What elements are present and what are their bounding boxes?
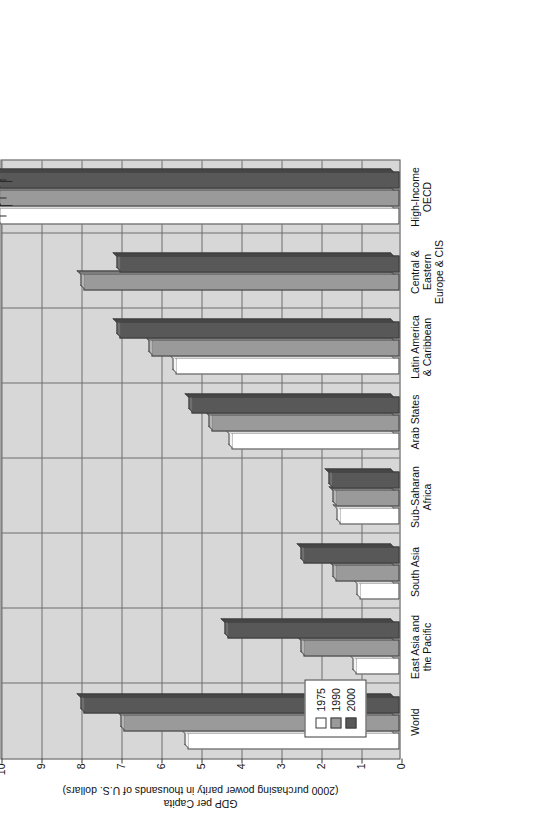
bar-2000-sub-saharan-africa	[331, 471, 399, 488]
axis-tick-mark	[161, 758, 162, 763]
y-axis-title-main: GDP per Capita	[62, 797, 338, 810]
callout-leader-line	[0, 180, 6, 181]
bar-side-face	[112, 252, 394, 256]
bar-1990-high-income-oecd	[0, 189, 399, 206]
category-label: World	[408, 684, 420, 759]
gridline	[81, 160, 82, 758]
legend-swatch-1975	[315, 717, 326, 728]
bar-1990-east-asia-and-the-pacific	[303, 639, 399, 656]
gridline	[201, 160, 202, 758]
bar-side-face	[296, 543, 394, 547]
legend-swatch-1990	[330, 717, 341, 728]
category-label: Sub-Saharan Africa	[408, 459, 432, 534]
legend: 197519902000	[304, 679, 366, 737]
axis-tick-mark	[281, 758, 282, 763]
bar-2000-arab-states	[191, 396, 399, 413]
bar-2000-south-asia	[303, 546, 399, 563]
category-separator	[1, 382, 399, 383]
bar-2000-central-eastern-europe-cis	[119, 255, 399, 272]
axis-tick-mark	[361, 758, 362, 763]
category-separator	[1, 307, 399, 308]
category-label: High-Income OECD	[408, 159, 432, 234]
gridline	[121, 160, 122, 758]
category-label: Arab States	[408, 384, 420, 459]
bar-1975-arab-states	[231, 432, 399, 449]
bar-side-face	[220, 618, 394, 622]
callout-leader-line	[0, 198, 6, 199]
axis-tick-mark	[321, 758, 322, 763]
chart-rotation-wrapper: GDP per Capita (2000 purchasing power pa…	[0, 0, 557, 822]
y-tick-label: 8	[74, 763, 86, 769]
y-tick-label: 5	[194, 763, 206, 769]
bar-1990-sub-saharan-africa	[335, 489, 399, 506]
bar-side-face	[324, 468, 394, 472]
category-label: Central & Eastern Europe & CIS	[408, 234, 444, 309]
axis-tick-mark	[81, 758, 82, 763]
gdp-per-capita-bar-chart: GDP per Capita (2000 purchasing power pa…	[0, 0, 557, 822]
axis-tick-mark	[201, 758, 202, 763]
bar-1975-sub-saharan-africa	[339, 507, 399, 524]
axis-tick-mark	[41, 758, 42, 763]
bar-1975-south-asia	[359, 582, 399, 599]
axis-tick-mark	[121, 758, 122, 763]
axis-break-marker	[0, 154, 14, 212]
plot-area	[0, 159, 400, 759]
gridline	[281, 160, 282, 758]
gridline	[241, 160, 242, 758]
y-tick-label: 6	[154, 763, 166, 769]
y-tick-label: 1	[354, 763, 366, 769]
legend-label-1975: 1975	[314, 688, 326, 711]
gridline	[321, 160, 322, 758]
callout-leader-line	[0, 216, 6, 217]
y-tick-label: 9	[34, 763, 46, 769]
category-separator	[1, 457, 399, 458]
legend-label-1990: 1990	[329, 688, 341, 711]
legend-label-2000: 2000	[344, 688, 356, 711]
y-tick-label: 2	[314, 763, 326, 769]
x-axis-category-labels: WorldEast Asia and the PacificSouth Asia…	[402, 159, 472, 759]
legend-item-1990: 1990	[329, 688, 341, 728]
bar-2000-latin-america-caribbean	[119, 321, 399, 338]
category-label: South Asia	[408, 534, 420, 609]
bar-side-face	[184, 393, 394, 397]
gridline	[161, 160, 162, 758]
bar-1975-east-asia-and-the-pacific	[355, 657, 399, 674]
bar-1990-south-asia	[335, 564, 399, 581]
bar-2000-east-asia-and-the-pacific	[227, 621, 399, 638]
bar-1975-latin-america-caribbean	[175, 357, 399, 374]
bar-1990-central-eastern-europe-cis	[83, 273, 399, 290]
y-axis-title: GDP per Capita (2000 purchasing power pa…	[0, 780, 400, 814]
gridline	[1, 160, 2, 758]
category-separator	[1, 532, 399, 533]
bar-1975-world	[187, 732, 399, 749]
y-tick-label: 10	[0, 763, 6, 775]
y-axis-tick-labels: 012345678910	[0, 760, 400, 782]
gridline	[41, 160, 42, 758]
category-label: East Asia and the Pacific	[408, 609, 432, 684]
y-tick-label: 4	[234, 763, 246, 769]
bar-side-face	[112, 318, 394, 322]
y-axis-title-sub: (2000 purchasing power parity in thousan…	[62, 784, 338, 797]
category-separator	[1, 607, 399, 608]
axis-tick-mark	[241, 758, 242, 763]
legend-item-1975: 1975	[314, 688, 326, 728]
bar-1990-arab-states	[211, 414, 399, 431]
bar-1975-high-income-oecd	[0, 207, 399, 224]
y-tick-label: 3	[274, 763, 286, 769]
bar-1990-latin-america-caribbean	[151, 339, 399, 356]
category-separator	[1, 232, 399, 233]
y-tick-label: 7	[114, 763, 126, 769]
legend-item-2000: 2000	[344, 688, 356, 728]
bar-side-face	[0, 168, 394, 172]
bar-2000-high-income-oecd	[0, 171, 399, 188]
legend-swatch-2000	[345, 717, 356, 728]
axis-tick-mark	[1, 758, 2, 763]
y-tick-label: 0	[394, 763, 406, 769]
category-label: Latin America & Caribbean	[408, 309, 432, 384]
